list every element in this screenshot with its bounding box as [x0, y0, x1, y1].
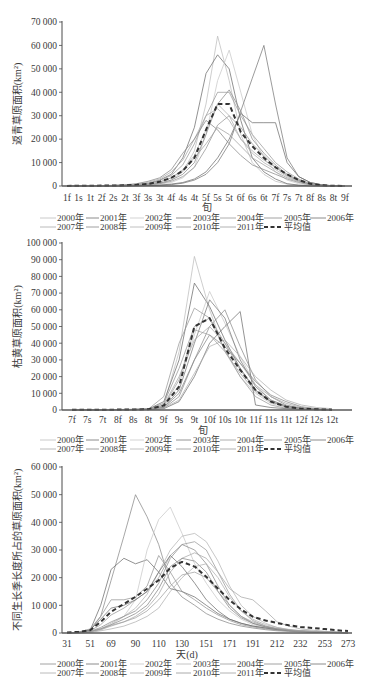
y-tick-label: 0 [52, 181, 57, 191]
y-tick-label: 50 000 [31, 322, 57, 332]
y-axis-title: 枯黄草原面积(km²) [11, 285, 24, 367]
legend-label: 2009年 [145, 221, 172, 232]
x-tick-label: 6f [237, 193, 246, 203]
x-tick-label: 9t [191, 415, 199, 425]
series-line-2003 [67, 533, 348, 633]
legend-item: 2007年 [40, 221, 84, 232]
legend-item: 2008年 [86, 221, 127, 232]
x-tick-label: 2s [109, 193, 118, 203]
legend: 2000年2001年2002年2003年2004年2005年2006年2007年… [40, 212, 354, 232]
x-tick-label: 4s [179, 193, 188, 203]
legend-item: 平均值 [264, 667, 311, 678]
x-tick-label: 8f [306, 193, 315, 203]
legend-item: 2006年 [310, 212, 354, 223]
x-tick-label: 7f [68, 415, 77, 425]
series-line-2004 [72, 308, 332, 410]
y-tick-label: 20 000 [31, 134, 57, 144]
legend-label: 2009年 [145, 443, 172, 454]
x-tick-label: 10t [234, 415, 247, 425]
y-tick-label: 40 000 [31, 339, 57, 349]
chart-panel-1: 010 00020 00030 00040 00050 00060 00070 … [11, 17, 354, 232]
x-tick-label: 9s [175, 415, 184, 425]
x-tick-label: 8s [318, 193, 327, 203]
x-tick-label: 232 [293, 639, 308, 649]
series-lines [72, 256, 332, 409]
x-tick-label: 273 [341, 639, 356, 649]
x-tick-label: 1t [86, 193, 94, 203]
legend-label: 2008年 [100, 443, 127, 454]
series-line-2005 [67, 545, 348, 634]
x-tick-label: 110 [152, 639, 166, 649]
legend-item: 2007年 [40, 443, 84, 454]
figure-three-line-charts: 010 00020 00030 00040 00050 00060 00070 … [0, 0, 371, 689]
legend-item: 2008年 [86, 667, 127, 678]
y-tick-label: 60 000 [31, 462, 57, 472]
legend-label: 平均值 [284, 667, 311, 678]
y-tick-label: 20 000 [31, 573, 57, 583]
series-line-2000 [67, 36, 345, 186]
chart-panel-3: 010 00020 00030 00040 00050 00060 000315… [11, 462, 355, 678]
x-tick-label: 151 [199, 639, 214, 649]
x-tick-label: 3f [133, 193, 142, 203]
y-tick-label: 10 000 [31, 601, 57, 611]
legend-label: 2007年 [57, 443, 84, 454]
legend-label: 平均值 [284, 443, 311, 454]
legend-item: 2011年 [220, 443, 264, 454]
x-tick-label: 1f [63, 193, 72, 203]
x-tick-label: 7f [272, 193, 281, 203]
x-tick-label: 7t [295, 193, 303, 203]
legend-label: 2007年 [57, 221, 84, 232]
legend-item: 2009年 [130, 667, 172, 678]
legend-item: 2008年 [86, 443, 127, 454]
x-tick-label: 8t [145, 415, 153, 425]
y-tick-label: 100 000 [26, 238, 57, 248]
y-tick-label: 70 000 [31, 17, 57, 27]
legend-label: 2011年 [237, 667, 264, 678]
legend-item: 2009年 [130, 221, 172, 232]
legend-label: 2007年 [57, 667, 84, 678]
series-line-2008 [67, 558, 348, 633]
legend-item: 2006年 [310, 434, 354, 445]
legend-item: 2010年 [176, 221, 220, 232]
x-tick-label: 12f [295, 415, 309, 425]
y-tick-label: 70 000 [31, 288, 57, 298]
x-tick-label: 212 [270, 639, 285, 649]
legend-item: 2009年 [130, 443, 172, 454]
legend-label: 2008年 [100, 221, 127, 232]
y-tick-label: 30 000 [31, 545, 57, 555]
y-axis-title: 不同生长季长度所占的草原面积(km²) [11, 469, 24, 631]
x-tick-label: 191 [246, 639, 261, 649]
series-line-2011 [67, 127, 345, 186]
x-tick-label: 253 [318, 639, 333, 649]
x-tick-label: 5s [213, 193, 222, 203]
x-tick-label: 3s [144, 193, 153, 203]
series-line-2006 [67, 113, 345, 186]
legend-item: 平均值 [264, 443, 311, 454]
series-line-2011 [72, 330, 332, 410]
y-tick-label: 50 000 [31, 490, 57, 500]
series-line-2003 [72, 300, 332, 410]
legend-item: 2010年 [176, 667, 220, 678]
series-line-2007 [72, 327, 332, 410]
x-tick-label: 4f [167, 193, 176, 203]
x-tick-label: 12s [310, 415, 324, 425]
x-tick-label: 171 [222, 639, 237, 649]
x-tick-label: 69 [106, 639, 116, 649]
x-tick-label: 31 [62, 639, 72, 649]
y-tick-label: 80 000 [31, 272, 57, 282]
x-tick-label: 9f [160, 415, 169, 425]
legend-label: 2006年 [327, 212, 354, 223]
y-tick-label: 90 000 [31, 255, 57, 265]
x-tick-label: 6s [248, 193, 257, 203]
legend-item: 2006年 [310, 658, 354, 669]
average-line [67, 562, 348, 633]
x-tick-label: 10s [218, 415, 232, 425]
series-line-2009 [72, 340, 332, 410]
x-tick-label: 12t [326, 415, 339, 425]
legend-item: 2007年 [40, 667, 84, 678]
legend-label: 平均值 [284, 221, 311, 232]
x-tick-label: 2t [121, 193, 129, 203]
x-tick-label: 2f [98, 193, 107, 203]
series-line-2008 [72, 335, 332, 410]
legend-item: 2010年 [176, 443, 220, 454]
